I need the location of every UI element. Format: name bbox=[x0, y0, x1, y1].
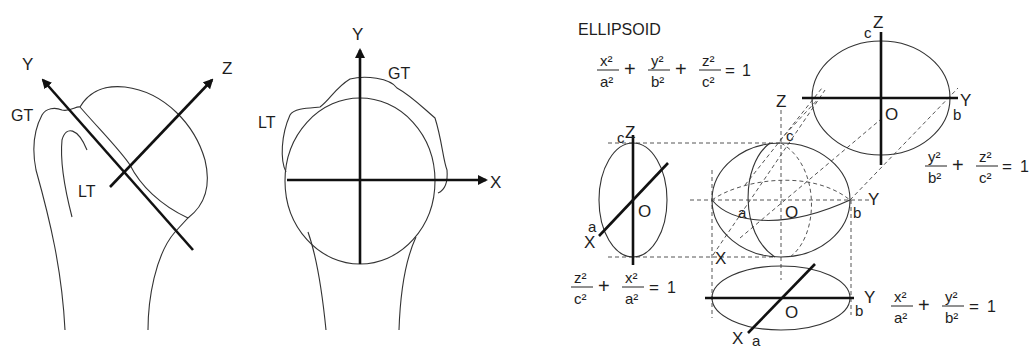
svg-text:X: X bbox=[715, 249, 726, 268]
projection-lines bbox=[608, 88, 958, 318]
side-view-zx: Z c X a O bbox=[584, 123, 668, 265]
figure-svg: Y Z GT LT Y X GT LT ELLIPSOID x² a² + y²… bbox=[0, 0, 1031, 355]
svg-text:y²: y² bbox=[928, 148, 941, 165]
svg-text:c²: c² bbox=[979, 169, 992, 186]
svg-text:+: + bbox=[952, 154, 964, 176]
middle-humerus-panel: Y X GT LT bbox=[258, 25, 501, 330]
svg-text:Y: Y bbox=[868, 190, 879, 209]
svg-text:+: + bbox=[675, 58, 687, 80]
bicipital-groove bbox=[62, 131, 87, 217]
svg-text:Z: Z bbox=[625, 123, 635, 142]
svg-text:b²: b² bbox=[928, 169, 941, 186]
svg-text:a: a bbox=[738, 204, 747, 221]
svg-text:Z: Z bbox=[776, 92, 786, 111]
svg-text:z²: z² bbox=[979, 148, 992, 165]
humeral-head bbox=[80, 87, 207, 232]
center-ellipsoid-3d: c a O b Y X bbox=[712, 127, 879, 268]
svg-text:X: X bbox=[732, 329, 743, 348]
svg-text:=: = bbox=[649, 278, 659, 297]
top-view-yz: Z c Y b O Z bbox=[776, 13, 971, 165]
svg-text:c²: c² bbox=[702, 73, 715, 90]
svg-text:x²: x² bbox=[625, 269, 638, 286]
x-axis-label: X bbox=[490, 173, 501, 192]
svg-text:z²: z² bbox=[574, 269, 587, 286]
gt-label: GT bbox=[388, 65, 410, 82]
svg-text:=: = bbox=[969, 297, 979, 316]
svg-text:a²: a² bbox=[625, 290, 638, 307]
svg-text:z²: z² bbox=[702, 52, 715, 69]
svg-text:a²: a² bbox=[600, 73, 613, 90]
xy-equation: x² a² + y² b² = 1 bbox=[891, 288, 996, 326]
svg-text:1: 1 bbox=[987, 298, 996, 315]
humerus-shaft-left bbox=[308, 232, 326, 330]
svg-text:+: + bbox=[624, 58, 636, 80]
ellipsoid-panel: ELLIPSOID x² a² + y² b² + z² c² = 1 bbox=[571, 13, 1029, 349]
left-humerus-panel: Y Z GT LT bbox=[11, 55, 232, 330]
svg-text:1: 1 bbox=[667, 279, 676, 296]
svg-text:1: 1 bbox=[742, 62, 751, 79]
svg-text:+: + bbox=[598, 275, 610, 297]
svg-text:1: 1 bbox=[1020, 158, 1029, 175]
svg-text:O: O bbox=[638, 202, 651, 221]
main-equation: x² a² + y² b² + z² c² = 1 bbox=[597, 52, 751, 90]
svg-text:c²: c² bbox=[574, 290, 587, 307]
svg-text:y²: y² bbox=[651, 52, 664, 69]
y-axis-label: Y bbox=[22, 55, 33, 74]
svg-text:O: O bbox=[885, 105, 898, 124]
svg-text:a: a bbox=[752, 332, 761, 349]
svg-text:c: c bbox=[617, 129, 625, 146]
lt-label: LT bbox=[258, 114, 276, 131]
svg-text:c: c bbox=[786, 127, 794, 144]
svg-text:b²: b² bbox=[945, 309, 958, 326]
svg-text:=: = bbox=[725, 61, 735, 80]
svg-text:O: O bbox=[785, 303, 798, 322]
yz-equation: y² b² + z² c² = 1 bbox=[925, 148, 1029, 186]
svg-text:Y: Y bbox=[960, 91, 971, 110]
svg-text:Y: Y bbox=[864, 288, 875, 307]
svg-text:X: X bbox=[584, 233, 595, 252]
ellipsoid-humeral-head-figure: Y Z GT LT Y X GT LT ELLIPSOID x² a² + y²… bbox=[0, 0, 1031, 355]
y-axis-arrow bbox=[43, 80, 193, 250]
svg-text:a²: a² bbox=[894, 309, 907, 326]
svg-text:c: c bbox=[864, 24, 872, 41]
humerus-shaft-right bbox=[148, 232, 175, 330]
gt-label: GT bbox=[11, 107, 33, 124]
svg-text:b: b bbox=[853, 204, 861, 221]
svg-text:x²: x² bbox=[894, 288, 907, 305]
svg-text:O: O bbox=[785, 203, 798, 222]
svg-text:y²: y² bbox=[945, 288, 958, 305]
ellipsoid-title: ELLIPSOID bbox=[578, 21, 661, 38]
svg-text:Z: Z bbox=[873, 13, 883, 32]
svg-text:b: b bbox=[953, 106, 961, 123]
bottom-view-xy: Y b O X a bbox=[705, 264, 875, 349]
humerus-shaft-left bbox=[34, 107, 80, 330]
z-axis-label: Z bbox=[222, 59, 232, 78]
zx-equation: z² c² + x² a² = 1 bbox=[571, 269, 676, 307]
svg-text:a: a bbox=[588, 218, 597, 235]
humerus-shaft-right bbox=[399, 237, 416, 330]
svg-text:x²: x² bbox=[600, 52, 613, 69]
z-axis-arrow bbox=[110, 80, 212, 187]
y-axis-label: Y bbox=[352, 25, 363, 44]
svg-text:=: = bbox=[1002, 157, 1012, 176]
svg-text:+: + bbox=[918, 294, 930, 316]
lt-label: LT bbox=[78, 183, 96, 200]
svg-text:b: b bbox=[855, 302, 863, 319]
svg-text:b²: b² bbox=[651, 73, 664, 90]
